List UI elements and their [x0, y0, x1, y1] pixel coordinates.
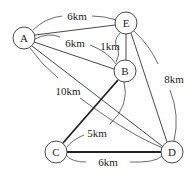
edge-e-d — [131, 33, 167, 142]
edge-a-e — [35, 25, 115, 35]
node-c-label: C — [52, 146, 59, 158]
edge-label-b-c: 5km — [87, 127, 107, 139]
edge-label-a-d: 10km — [55, 85, 81, 97]
node-b-label: B — [121, 65, 128, 77]
edge-label-e-b: 1km — [100, 40, 120, 52]
node-b: B — [114, 60, 136, 82]
node-c: C — [45, 141, 67, 163]
node-e: E — [115, 12, 137, 34]
edge-label-a-e: 6km — [67, 10, 87, 22]
arc-a-e — [33, 16, 62, 30]
edge-label-e-d: 8km — [164, 73, 184, 85]
node-a: A — [13, 27, 35, 49]
node-a-label: A — [20, 32, 28, 44]
arc-a-e-right — [92, 16, 116, 20]
arc-c-d-right — [130, 156, 162, 162]
arc-e-d-lower — [170, 90, 176, 141]
graph-diagram: 6km 6km 1km 10km 8km 5km 6km A E B C D — [0, 0, 194, 174]
edge-label-a-b: 6km — [65, 37, 85, 49]
node-d-label: D — [168, 146, 176, 158]
arc-b-c — [110, 82, 125, 124]
node-e-label: E — [123, 17, 130, 29]
edge-label-c-d: 6km — [98, 156, 118, 168]
node-d: D — [161, 141, 183, 163]
arc-a-d-right — [80, 98, 163, 148]
arc-e-d — [134, 31, 158, 64]
arc-a-b — [35, 35, 60, 39]
arc-c-d — [67, 156, 86, 162]
